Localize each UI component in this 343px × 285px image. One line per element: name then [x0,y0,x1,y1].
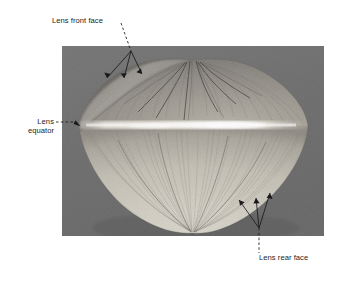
label-lens-equator-line1: Lens [37,117,54,126]
label-lens-front-face: Lens front face [52,16,103,25]
figure-container: Lens front face Lensequator Lens rear fa… [0,0,343,285]
label-lens-rear-face: Lens rear face [259,253,308,262]
label-lens-equator: Lensequator [8,117,54,136]
figure-artwork [0,0,343,285]
label-lens-equator-line2: equator [28,126,54,135]
photo-panel [60,40,330,250]
